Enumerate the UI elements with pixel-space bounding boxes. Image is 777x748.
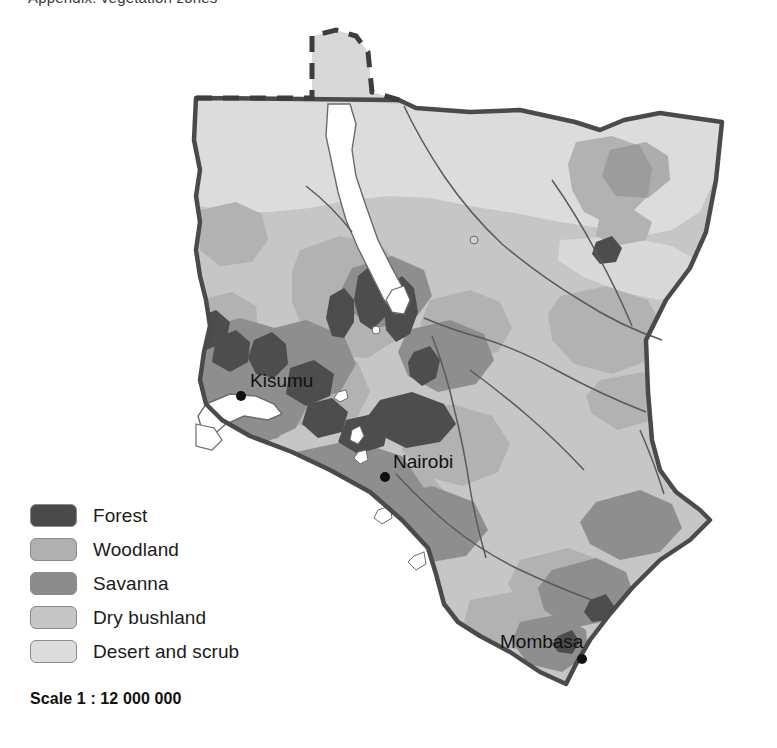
legend-label-dry-bushland: Dry bushland: [93, 608, 206, 627]
city-label-kisumu: Kisumu: [250, 370, 313, 391]
city-dot-mombasa[interactable]: [577, 654, 587, 664]
city-label-mombasa: Mombasa: [500, 631, 584, 652]
legend-swatch-woodland: [30, 538, 77, 561]
legend-swatch-dry-bushland: [30, 606, 77, 629]
legend-item-savanna: Savanna: [30, 566, 280, 600]
legend-label-woodland: Woodland: [93, 540, 179, 559]
legend-swatch-forest: [30, 504, 77, 527]
map-legend: Forest Woodland Savanna Dry bushland Des…: [30, 498, 280, 668]
legend-label-desert-and-scrub: Desert and scrub: [93, 642, 239, 661]
legend-item-desert-and-scrub: Desert and scrub: [30, 634, 280, 668]
legend-swatch-savanna: [30, 572, 77, 595]
map-page: Appendix: vegetation zones: [0, 0, 777, 748]
legend-label-forest: Forest: [93, 506, 147, 525]
city-dot-kisumu[interactable]: [236, 391, 246, 401]
map-scale-text: Scale 1 : 12 000 000: [30, 690, 181, 708]
legend-label-savanna: Savanna: [93, 574, 169, 593]
legend-item-forest: Forest: [30, 498, 280, 532]
legend-swatch-desert-and-scrub: [30, 640, 77, 663]
legend-item-dry-bushland: Dry bushland: [30, 600, 280, 634]
city-label-nairobi: Nairobi: [393, 451, 453, 472]
city-dot-nairobi[interactable]: [380, 472, 390, 482]
legend-item-woodland: Woodland: [30, 532, 280, 566]
